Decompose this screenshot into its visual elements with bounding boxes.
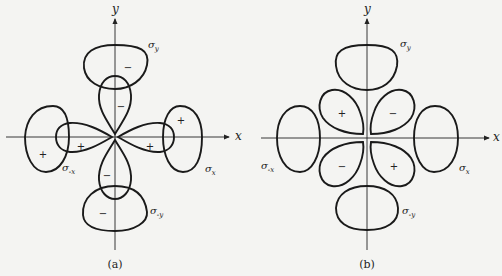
panel-a: x y − − − + + + + − σy σx σ-x σ-y (a) (6, 2, 242, 271)
label-sigma-x-b: σx (459, 162, 470, 176)
sign-p-left-a: + (77, 141, 85, 152)
sign-sigma-neg-y-a: − (99, 208, 107, 219)
y-axis-label-a: y (111, 2, 119, 16)
sign-sigma-y-a: − (124, 62, 132, 73)
sign-sigma-x-a: + (177, 115, 185, 126)
sigma-y-lobe-a (84, 45, 148, 89)
label-sigma-y-a: σy (148, 39, 160, 53)
sign-d-upper-left-b: + (338, 108, 346, 119)
sign-d-lower-left-b: − (338, 161, 346, 172)
caption-a: (a) (107, 258, 122, 271)
sign-p-up-a: − (117, 101, 125, 112)
label-sigma-neg-x-a: σ-x (62, 162, 75, 176)
y-axis-label-b: y (363, 2, 371, 16)
label-sigma-neg-x-b: σ-x (261, 160, 274, 174)
sign-sigma-neg-x-a: + (39, 149, 47, 160)
panel-b: x y + − − + σy σx σ-x σ-y (b) (261, 2, 500, 271)
sigma-x-lobe-b (414, 106, 458, 172)
sign-d-upper-right-b: − (389, 108, 397, 119)
orbital-diagram: x y − − − + + + + − σy σx σ-x σ-y (a) x (0, 0, 502, 276)
sign-p-down-a: − (103, 170, 111, 181)
caption-b: (b) (359, 258, 375, 271)
label-sigma-neg-y-b: σ-y (402, 205, 416, 219)
label-sigma-x-a: σx (205, 163, 216, 177)
label-sigma-neg-y-a: σ-y (150, 205, 164, 219)
sign-d-lower-right-b: + (390, 161, 398, 172)
sigma-neg-x-lobe-b (277, 106, 320, 172)
x-axis-label-a: x (235, 129, 242, 143)
label-sigma-y-b: σy (400, 38, 412, 52)
x-axis-label-b: x (493, 130, 500, 144)
sigma-y-lobe-b (336, 45, 398, 90)
sign-p-right-a: + (146, 141, 154, 152)
